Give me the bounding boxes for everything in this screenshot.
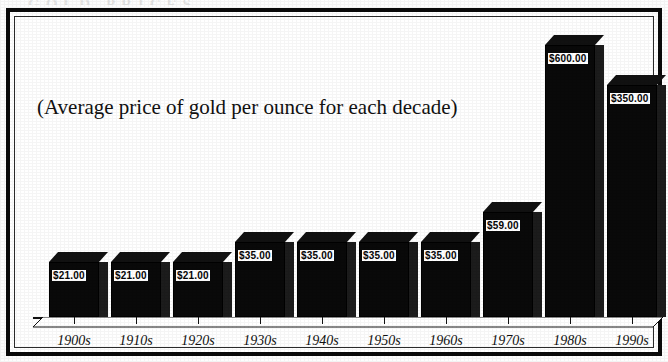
x-axis-label-1900s: 1900s bbox=[44, 333, 104, 349]
bar-top-face bbox=[545, 35, 604, 45]
chart-frame-outer: (Average price of gold per ounce for eac… bbox=[6, 8, 662, 356]
x-axis-tick bbox=[570, 317, 571, 324]
x-axis-tick bbox=[508, 317, 509, 324]
bar-1980s[interactable]: $600.00 bbox=[545, 45, 595, 317]
bar-top-face bbox=[49, 252, 108, 262]
bar-top-face bbox=[359, 232, 418, 242]
x-axis-label-1940s: 1940s bbox=[292, 333, 352, 349]
bar-1930s[interactable]: $35.00 bbox=[235, 242, 285, 317]
chart-plot-area: (Average price of gold per ounce for eac… bbox=[15, 17, 653, 347]
bar-side-face bbox=[161, 262, 170, 317]
x-axis-tick bbox=[446, 317, 447, 324]
bar-1960s[interactable]: $35.00 bbox=[421, 242, 471, 317]
bar-value-label: $35.00 bbox=[424, 250, 458, 261]
bar-top-face bbox=[235, 232, 294, 242]
bar-1990s[interactable]: $350.00 bbox=[607, 85, 657, 317]
x-axis-tick bbox=[384, 317, 385, 324]
bar-side-face bbox=[657, 85, 666, 317]
bar-1940s[interactable]: $35.00 bbox=[297, 242, 347, 317]
bar-value-label: $35.00 bbox=[362, 250, 396, 261]
x-axis-tick bbox=[260, 317, 261, 324]
bar-1910s[interactable]: $21.00 bbox=[111, 262, 161, 317]
bar-series: $21.00$21.00$21.00$35.00$35.00$35.00$35.… bbox=[15, 17, 653, 347]
bar-top-face bbox=[297, 232, 356, 242]
bar-side-face bbox=[409, 242, 418, 317]
bar-top-face bbox=[483, 202, 542, 212]
bar-side-face bbox=[347, 242, 356, 317]
bar-value-label: $35.00 bbox=[300, 250, 334, 261]
x-axis-label-1990s: 1990s bbox=[602, 333, 662, 349]
bar-value-label: $350.00 bbox=[610, 93, 650, 104]
bar-top-face bbox=[607, 75, 666, 85]
axis-floor-edge bbox=[33, 317, 663, 329]
bar-top-face bbox=[173, 252, 232, 262]
bar-side-face bbox=[533, 212, 542, 317]
x-axis-label-1920s: 1920s bbox=[168, 333, 228, 349]
bar-side-face bbox=[99, 262, 108, 317]
chart-frame-inner: (Average price of gold per ounce for eac… bbox=[14, 16, 654, 348]
x-axis-tick bbox=[632, 317, 633, 324]
bar-value-label: $600.00 bbox=[548, 53, 588, 64]
bar-top-face bbox=[421, 232, 480, 242]
clipped-title-fragment: GOLD PRICES bbox=[0, 0, 668, 5]
bar-1970s[interactable]: $59.00 bbox=[483, 212, 533, 317]
x-axis-tick bbox=[74, 317, 75, 324]
bar-top-face bbox=[111, 252, 170, 262]
x-axis-label-1910s: 1910s bbox=[106, 333, 166, 349]
bar-side-face bbox=[471, 242, 480, 317]
x-axis-label-1950s: 1950s bbox=[354, 333, 414, 349]
bar-value-label: $21.00 bbox=[114, 270, 148, 281]
x-axis-label-1960s: 1960s bbox=[416, 333, 476, 349]
bar-value-label: $59.00 bbox=[486, 220, 520, 231]
bar-front-face bbox=[607, 85, 657, 317]
x-axis-tick bbox=[136, 317, 137, 324]
x-axis-label-1970s: 1970s bbox=[478, 333, 538, 349]
bar-side-face bbox=[223, 262, 232, 317]
bar-side-face bbox=[595, 45, 604, 317]
x-axis-tick bbox=[322, 317, 323, 324]
x-axis-tick bbox=[198, 317, 199, 324]
bar-value-label: $21.00 bbox=[176, 270, 210, 281]
bar-value-label: $21.00 bbox=[52, 270, 86, 281]
bar-1900s[interactable]: $21.00 bbox=[49, 262, 99, 317]
bar-value-label: $35.00 bbox=[238, 250, 272, 261]
x-axis-label-1930s: 1930s bbox=[230, 333, 290, 349]
bar-1950s[interactable]: $35.00 bbox=[359, 242, 409, 317]
bar-1920s[interactable]: $21.00 bbox=[173, 262, 223, 317]
bar-side-face bbox=[285, 242, 294, 317]
bar-front-face bbox=[545, 45, 595, 317]
x-axis-label-1980s: 1980s bbox=[540, 333, 600, 349]
